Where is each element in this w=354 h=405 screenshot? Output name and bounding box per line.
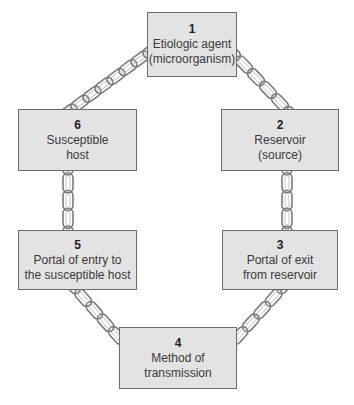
link-label-line: Etiologic agent: [153, 37, 232, 52]
link-number: 1: [189, 22, 196, 37]
chain-link: [105, 67, 127, 87]
chain-link-highlight: [97, 80, 111, 92]
chain-link: [93, 75, 115, 95]
chain-link-highlight: [238, 58, 251, 71]
chain-link: [240, 312, 261, 334]
link-number: 3: [277, 238, 284, 253]
link-label-line: the susceptible host: [24, 268, 130, 283]
link-box-etiologic-agent: 1 Etiologic agent (microorganism): [147, 12, 237, 77]
link-number: 2: [277, 118, 284, 133]
chain-link: [81, 84, 103, 104]
chain-link: [95, 312, 116, 334]
chain-link-highlight: [109, 71, 123, 83]
chain-link-highlight: [73, 97, 87, 109]
link-label-line: Susceptible: [46, 133, 108, 148]
link-box-portal-of-exit: 3 Portal of exit from reservoir: [222, 230, 338, 290]
link-label-line: Method of: [151, 351, 204, 366]
link-number: 6: [74, 118, 81, 133]
link-label-line: Portal of exit: [247, 253, 314, 268]
link-label-line: (source): [258, 148, 302, 163]
chain-link-highlight: [66, 194, 70, 208]
chain-link: [117, 58, 139, 78]
chain-link-highlight: [285, 194, 289, 208]
chain-link-highlight: [262, 83, 275, 96]
link-number: 4: [175, 336, 182, 351]
link-box-susceptible-host: 6 Susceptible host: [18, 109, 137, 171]
chain-link: [263, 287, 284, 309]
chain-link-highlight: [133, 53, 147, 65]
chain-link-highlight: [250, 71, 263, 84]
link-label-line: transmission: [144, 366, 211, 381]
chain-link-highlight: [121, 62, 135, 74]
link-number: 5: [74, 238, 81, 253]
link-box-method-of-transmission: 4 Method of transmission: [119, 327, 237, 389]
link-label-line: (microorganism): [149, 52, 236, 67]
chain-link-highlight: [66, 211, 70, 225]
link-box-reservoir: 2 Reservoir (source): [221, 109, 339, 171]
chain-link: [73, 287, 94, 309]
chain-link-highlight: [285, 211, 289, 225]
link-label-line: host: [66, 148, 89, 163]
chain-link: [84, 299, 105, 321]
link-label-line: Portal of entry to: [33, 253, 121, 268]
chain-link-highlight: [66, 176, 70, 190]
link-box-portal-of-entry: 5 Portal of entry to the susceptible hos…: [18, 230, 137, 290]
chain-link-highlight: [274, 96, 287, 109]
chain-link-highlight: [85, 89, 99, 101]
link-label-line: Reservoir: [254, 133, 305, 148]
chain-link-highlight: [285, 176, 289, 190]
link-label-line: from reservoir: [243, 268, 317, 283]
chain-link: [252, 299, 273, 321]
